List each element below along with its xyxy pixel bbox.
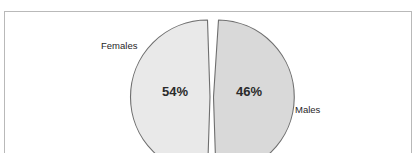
pie-value-label-males: 46% (236, 84, 262, 99)
pie-category-label-males: Males (295, 104, 321, 115)
pie-chart-svg: 54% 46% Females Males (0, 0, 418, 153)
pie-chart: 54% 46% Females Males (0, 0, 418, 153)
pie-category-label-females: Females (101, 40, 138, 51)
pie-value-label-females: 54% (162, 84, 188, 99)
screenshot-root: · · · · · 54% 46% Females Males (0, 0, 418, 153)
